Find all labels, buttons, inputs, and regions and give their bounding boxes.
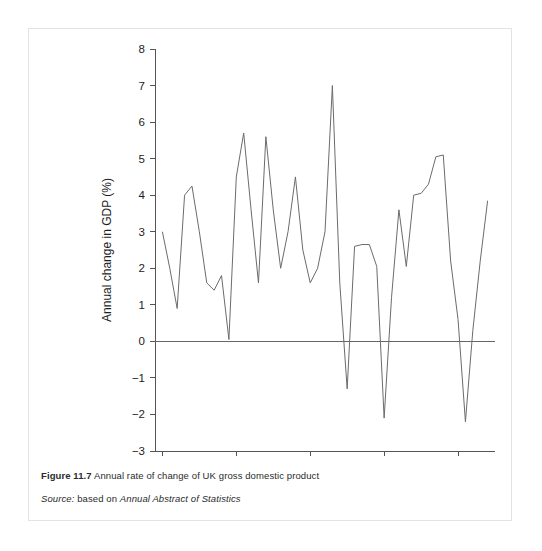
figure-caption-block: Figure 11.7 Annual rate of change of UK … bbox=[41, 469, 501, 506]
y-axis-title: Annual change in GDP (%) bbox=[100, 178, 114, 322]
y-tick-label: 8 bbox=[139, 43, 145, 55]
figure-number: Figure 11.7 bbox=[41, 470, 92, 481]
figure-caption: Figure 11.7 Annual rate of change of UK … bbox=[41, 469, 501, 483]
y-tick-label: −3 bbox=[132, 445, 145, 457]
x-axis-ticks: 19501960197019801990 bbox=[150, 451, 471, 459]
source-text: based on bbox=[74, 493, 119, 504]
y-tick-label: −1 bbox=[132, 372, 145, 384]
y-tick-label: 1 bbox=[139, 299, 145, 311]
y-tick-label: 7 bbox=[139, 80, 145, 92]
chart-axes bbox=[155, 49, 495, 451]
y-tick-label: 4 bbox=[139, 189, 146, 201]
figure-card: −3−2−1012345678 19501960197019801990 Ann… bbox=[28, 28, 512, 521]
y-tick-label: 6 bbox=[139, 116, 145, 128]
source-publication: Annual Abstract of Statistics bbox=[120, 493, 241, 504]
gdp-series-line bbox=[162, 86, 487, 422]
y-tick-label: 2 bbox=[139, 262, 145, 274]
chart-plot-area: −3−2−1012345678 19501960197019801990 Ann… bbox=[29, 29, 511, 459]
source-label: Source: bbox=[41, 493, 74, 504]
figure-caption-text: Annual rate of change of UK gross domest… bbox=[92, 470, 319, 481]
y-tick-label: 5 bbox=[139, 153, 145, 165]
gdp-line-chart: −3−2−1012345678 19501960197019801990 Ann… bbox=[29, 29, 511, 459]
y-tick-label: 3 bbox=[139, 226, 145, 238]
figure-source: Source: based on Annual Abstract of Stat… bbox=[41, 492, 501, 506]
y-tick-label: −2 bbox=[132, 408, 145, 420]
y-axis-ticks: −3−2−1012345678 bbox=[132, 43, 155, 457]
y-tick-label: 0 bbox=[139, 335, 145, 347]
